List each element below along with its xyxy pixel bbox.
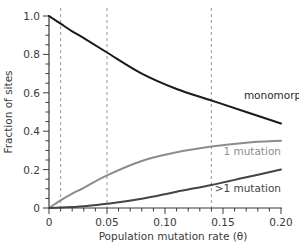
y-axis-title: Fraction of sites — [2, 70, 14, 153]
y-tick-label: 1.0 — [23, 10, 40, 22]
x-axis-title: Population mutation rate (θ) — [99, 230, 248, 242]
series-line-monomorphic — [49, 16, 281, 124]
x-tick-label: 0.05 — [95, 216, 118, 228]
series-label: monomorphic — [244, 89, 299, 101]
series-lines — [49, 16, 281, 208]
y-tick-label: 0 — [33, 202, 40, 214]
chart: 00.050.100.150.2000.20.40.60.81.0 monomo… — [0, 0, 299, 252]
x-tick-label: 0.20 — [269, 216, 292, 228]
y-tick-label: 0.4 — [23, 125, 40, 137]
y-tick-label: 0.2 — [23, 164, 40, 176]
y-tick-label: 0.6 — [23, 87, 40, 99]
x-tick-label: 0 — [46, 216, 53, 228]
x-tick-label: 0.10 — [153, 216, 176, 228]
y-tick-label: 0.8 — [23, 48, 40, 60]
series-label: >1 mutation — [215, 182, 281, 194]
x-tick-label: 0.15 — [211, 216, 234, 228]
series-label: 1 mutation — [223, 145, 281, 157]
